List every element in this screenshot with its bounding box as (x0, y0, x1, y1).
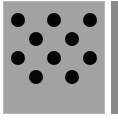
dot-2 (47, 13, 61, 27)
dot-1 (11, 13, 25, 27)
dot-10 (65, 70, 79, 84)
stimulus-stage (0, 0, 118, 124)
dot-8 (83, 51, 97, 65)
dot-4 (29, 32, 43, 46)
dot-6 (11, 51, 25, 65)
dot-5 (65, 32, 79, 46)
adjacent-panel-edge[interactable] (111, 1, 118, 114)
dot-7 (47, 51, 61, 65)
dot-9 (29, 70, 43, 84)
dot-3 (83, 13, 97, 27)
dot-panel[interactable] (3, 1, 105, 114)
